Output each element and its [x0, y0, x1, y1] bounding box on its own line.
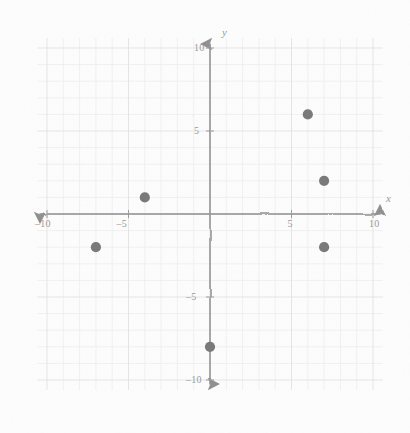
- coordinate-plane-figure: x y –10–5510105–5–10: [0, 0, 410, 433]
- data-point[interactable]: [319, 176, 329, 186]
- y-tick-label: 5: [194, 125, 199, 136]
- axes-lines: [40, 44, 380, 384]
- y-tick-label: –10: [186, 374, 202, 385]
- data-point[interactable]: [205, 342, 215, 352]
- y-axis-label: y: [222, 26, 227, 38]
- x-tick-label: 5: [288, 218, 293, 229]
- x-axis-label: x: [386, 192, 391, 204]
- data-point[interactable]: [140, 192, 150, 202]
- data-point[interactable]: [91, 242, 101, 252]
- y-tick-label: –5: [186, 291, 196, 302]
- x-tick-label: –10: [35, 218, 51, 229]
- data-point[interactable]: [303, 109, 313, 119]
- x-tick-label: –5: [117, 218, 127, 229]
- y-tick-label: 10: [194, 42, 204, 53]
- x-tick-label: 10: [369, 218, 379, 229]
- data-point[interactable]: [319, 242, 329, 252]
- plot-canvas: [0, 0, 410, 433]
